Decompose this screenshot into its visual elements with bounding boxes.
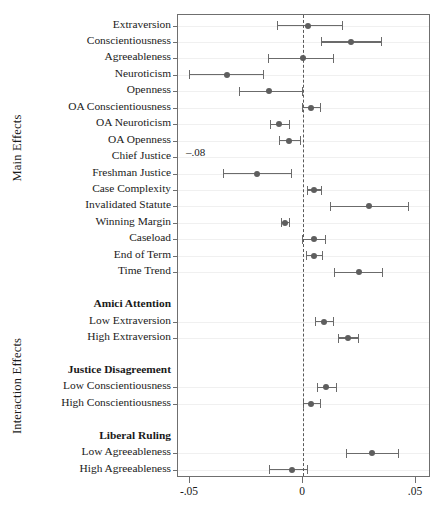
confidence-interval-cap	[322, 251, 323, 260]
coefficient-plot-figure: ExtraversionConscientiousnessAgreeablene…	[0, 0, 441, 516]
row-label: End of Term	[0, 249, 171, 260]
confidence-interval-cap	[325, 235, 326, 244]
row-label: OA Conscientiousness	[0, 101, 171, 112]
row-label: Neuroticism	[0, 68, 171, 79]
confidence-interval-cap	[239, 87, 240, 96]
confidence-interval-cap	[317, 383, 318, 392]
confidence-interval-cap	[270, 120, 271, 129]
row-label: Caseload	[0, 232, 171, 243]
row-label: Conscientiousness	[0, 35, 171, 46]
confidence-interval-cap	[306, 251, 307, 260]
estimate-point	[369, 450, 375, 456]
row-label: Agreeableness	[0, 51, 171, 62]
estimate-point	[254, 171, 260, 177]
x-axis-tick-label: .05	[408, 485, 422, 497]
row-group-header: Justice Disagreement	[0, 364, 171, 375]
estimate-point	[308, 105, 314, 111]
confidence-interval-cap	[320, 103, 321, 112]
x-axis-tick	[415, 477, 416, 483]
x-axis-tick-label: 0	[299, 485, 305, 497]
estimate-point	[311, 187, 317, 193]
estimate-point	[323, 384, 329, 390]
estimate-point	[356, 269, 362, 275]
confidence-interval-cap	[268, 54, 269, 63]
group-axis-label-main-effects: Main Effects	[10, 114, 25, 181]
confidence-interval-cap	[307, 186, 308, 195]
confidence-interval-cap	[336, 383, 337, 392]
x-axis-tick	[189, 477, 190, 483]
confidence-interval-cap	[333, 54, 334, 63]
group-axis-label-interaction-effects: Interaction Effects	[10, 338, 25, 434]
plot-panel: –.08	[177, 14, 430, 477]
row-group-header: Liberal Ruling	[0, 430, 171, 441]
confidence-interval-cap	[300, 136, 301, 145]
row-label: Invalidated Statute	[0, 199, 171, 210]
estimate-point	[305, 23, 311, 29]
estimate-point	[289, 467, 295, 473]
confidence-interval-cap	[291, 169, 292, 178]
confidence-interval-cap	[330, 202, 331, 211]
confidence-interval-cap	[382, 268, 383, 277]
confidence-interval-cap	[223, 169, 224, 178]
estimate-point	[224, 72, 230, 78]
estimate-point	[348, 39, 354, 45]
estimate-point	[276, 121, 282, 127]
x-axis-tick	[302, 477, 303, 483]
row-label: Low Conscientiousness	[0, 380, 171, 391]
confidence-interval-cap	[263, 70, 264, 79]
estimate-point	[308, 401, 314, 407]
row-label: Time Trend	[0, 265, 171, 276]
x-axis-tick-label: -.05	[180, 485, 198, 497]
confidence-interval-cap	[279, 136, 280, 145]
estimate-point	[266, 88, 272, 94]
row-group-header: Amici Attention	[0, 298, 171, 309]
row-label: Case Complexity	[0, 183, 171, 194]
row-label: Low Agreeableness	[0, 446, 171, 457]
confidence-interval-cap	[381, 37, 382, 46]
confidence-interval-cap	[321, 186, 322, 195]
estimate-point	[311, 253, 317, 259]
row-label: Openness	[0, 84, 171, 95]
confidence-interval-cap	[408, 202, 409, 211]
row-label: Low Extraversion	[0, 315, 171, 326]
row-label: High Conscientiousness	[0, 397, 171, 408]
confidence-interval-cap	[398, 449, 399, 458]
row-label: Freshman Justice	[0, 167, 171, 178]
confidence-interval-cap	[321, 37, 322, 46]
confidence-interval-cap	[334, 268, 335, 277]
estimate-point	[321, 319, 327, 325]
row-label: Chief Justice	[0, 150, 171, 161]
confidence-interval-cap	[289, 120, 290, 129]
row-label: OA Openness	[0, 134, 171, 145]
estimate-point	[311, 236, 317, 242]
confidence-interval-cap	[333, 317, 334, 326]
confidence-interval-cap	[289, 218, 290, 227]
zero-reference-line	[303, 15, 304, 476]
confidence-interval-cap	[307, 465, 308, 474]
row-labels-column: ExtraversionConscientiousnessAgreeablene…	[0, 0, 171, 516]
estimate-point	[286, 138, 292, 144]
row-label: OA Neuroticism	[0, 117, 171, 128]
row-label: Winning Margin	[0, 216, 171, 227]
row-label: High Agreeableness	[0, 463, 171, 474]
off-scale-estimate-label: –.08	[186, 146, 205, 158]
confidence-interval-cap	[358, 334, 359, 343]
confidence-interval-cap	[346, 449, 347, 458]
confidence-interval-cap	[342, 21, 343, 30]
estimate-point	[366, 203, 372, 209]
confidence-interval-cap	[269, 465, 270, 474]
confidence-interval-cap	[277, 21, 278, 30]
row-label: Extraversion	[0, 19, 171, 30]
confidence-interval-cap	[338, 334, 339, 343]
estimate-point	[282, 220, 288, 226]
confidence-interval-cap	[320, 399, 321, 408]
x-axis: -.050.05	[177, 477, 430, 513]
estimate-point	[345, 335, 351, 341]
confidence-interval-cap	[189, 70, 190, 79]
confidence-interval-cap	[315, 317, 316, 326]
row-label: High Extraversion	[0, 331, 171, 342]
